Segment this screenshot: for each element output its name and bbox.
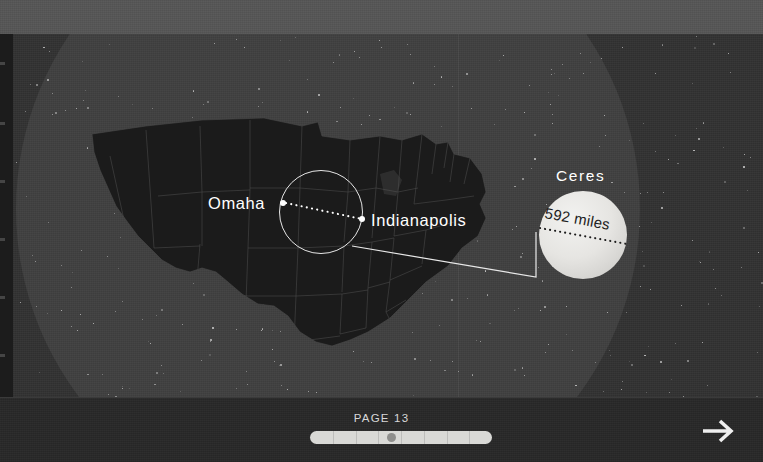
city-dot-omaha[interactable] <box>280 200 286 206</box>
top-letterbox-band <box>0 0 763 34</box>
arrow-right-icon <box>700 417 738 445</box>
map-callout-circle <box>279 170 363 254</box>
page-progress-slider[interactable] <box>310 431 492 444</box>
slide-stage: Omaha Indianapolis Ceres 592 miles <box>0 34 763 397</box>
footer-bar: PAGE 13 <box>0 397 763 462</box>
edge-tick <box>0 62 5 65</box>
city-label-omaha: Omaha <box>208 194 265 213</box>
top-band-texture <box>0 0 763 34</box>
united-states-map <box>50 96 520 386</box>
left-edge-strip <box>0 34 13 397</box>
footer-grain-texture <box>0 398 763 462</box>
next-page-button[interactable] <box>697 410 741 452</box>
city-dot-indianapolis[interactable] <box>359 216 365 222</box>
city-label-indianapolis: Indianapolis <box>371 211 466 230</box>
slide-viewer: Omaha Indianapolis Ceres 592 miles PAGE … <box>0 0 763 462</box>
page-progress-ticks <box>310 431 492 444</box>
edge-tick <box>0 296 5 299</box>
page-indicator-label: PAGE 13 <box>0 412 763 424</box>
edge-tick <box>0 122 5 125</box>
edge-tick <box>0 180 5 183</box>
edge-tick <box>0 238 5 241</box>
ceres-title: Ceres <box>556 167 605 185</box>
edge-tick <box>0 354 5 357</box>
